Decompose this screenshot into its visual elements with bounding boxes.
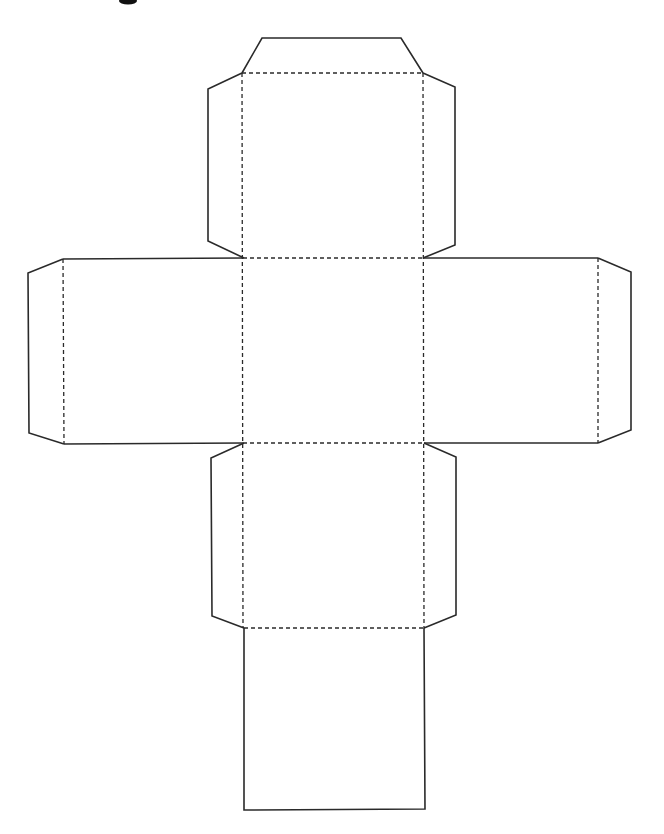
cropped-title-glyph [119, 0, 137, 5]
cut-line-2 [64, 443, 243, 444]
fold-line-2 [423, 73, 424, 628]
flaps [28, 38, 631, 628]
cube-net-diagram [0, 0, 664, 834]
cut-line-0 [63, 258, 243, 259]
cut-line-4 [244, 628, 425, 810]
left-flap [28, 259, 64, 444]
top-left-flap [208, 73, 244, 258]
lower-left-flap [211, 443, 244, 628]
top-flap [242, 38, 423, 73]
top-right-flap [423, 73, 455, 258]
right-flap [598, 258, 631, 443]
cut-lines [63, 258, 598, 810]
fold-line-6 [63, 259, 64, 444]
fold-line-1 [242, 73, 243, 628]
fold-lines [63, 73, 598, 628]
lower-right-flap [424, 443, 456, 628]
